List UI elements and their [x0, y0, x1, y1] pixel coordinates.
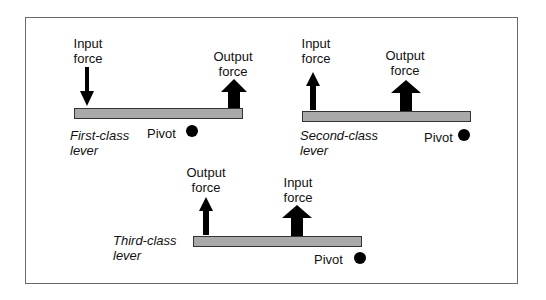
label-line: Input: [276, 175, 320, 190]
label-line: Second-class: [300, 128, 378, 143]
label-line: force: [276, 190, 320, 205]
input-force-label: Input force: [294, 36, 338, 66]
lever-beam: [302, 111, 471, 122]
label-line: force: [294, 51, 338, 66]
lever-class-label: Second-class lever: [300, 128, 378, 158]
lever-beam: [74, 108, 243, 119]
thick-arrow-up-icon: [391, 80, 421, 111]
output-force-label: Output force: [208, 49, 258, 79]
output-force-label: Output force: [380, 48, 430, 78]
label-line: Input: [66, 36, 110, 51]
label-line: First-class: [70, 128, 129, 143]
label-line: lever: [113, 248, 177, 263]
label-line: force: [208, 64, 258, 79]
thin-arrow-up-icon: [306, 72, 320, 110]
pivot-dot-icon: [186, 125, 198, 137]
pivot-label: Pivot: [147, 126, 176, 141]
label-line: Output: [181, 165, 231, 180]
lever-class-label: Third-class lever: [113, 233, 177, 263]
label-line: force: [380, 63, 430, 78]
pivot-label: Pivot: [424, 130, 453, 145]
label-line: lever: [70, 143, 129, 158]
label-line: Output: [208, 49, 258, 64]
output-force-label: Output force: [181, 165, 231, 195]
lever-class-label: First-class lever: [70, 128, 129, 158]
pivot-label: Pivot: [314, 252, 343, 267]
pivot-dot-icon: [354, 252, 366, 264]
label-line: Third-class: [113, 233, 177, 248]
label-line: force: [66, 51, 110, 66]
label-line: lever: [300, 143, 378, 158]
pivot-dot-icon: [458, 129, 470, 141]
lever-beam: [193, 236, 362, 247]
label-line: Output: [380, 48, 430, 63]
input-force-label: Input force: [276, 175, 320, 205]
thin-arrow-down-icon: [80, 67, 94, 107]
label-line: force: [181, 180, 231, 195]
label-line: Input: [294, 36, 338, 51]
input-force-label: Input force: [66, 36, 110, 66]
thick-arrow-up-icon: [221, 79, 247, 109]
thick-arrow-up-icon: [282, 205, 312, 236]
thin-arrow-up-icon: [199, 197, 213, 235]
